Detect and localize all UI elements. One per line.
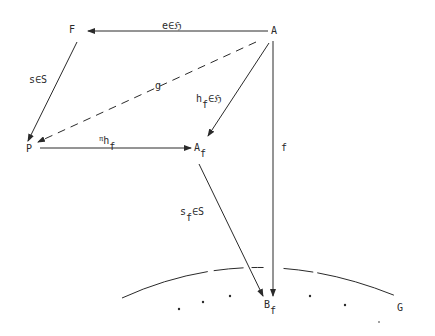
node-bf-sub: f	[270, 305, 276, 316]
edge-hf-sub: f	[202, 99, 208, 110]
diagram-canvas	[0, 0, 435, 336]
edge-hf-arrow	[208, 43, 269, 136]
edge-f-label: f	[281, 143, 287, 153]
node-a: A	[271, 26, 277, 36]
edge-hf-label: hf∈ℌ	[196, 94, 222, 104]
edge-pi-main: π	[99, 135, 103, 143]
edge-s-label: s∈S	[29, 75, 47, 85]
node-g: G	[397, 303, 403, 313]
edge-g-dashed-arrow	[38, 42, 256, 142]
node-bf: Bf	[264, 300, 276, 310]
node-af-sub: f	[200, 148, 206, 159]
edge-sf-sub: f	[186, 212, 192, 223]
edge-sf-label: sf∈S	[180, 207, 204, 217]
edge-sf-arrow	[199, 164, 263, 296]
edge-sf-tail: ∈S	[192, 206, 204, 217]
node-p: P	[26, 144, 32, 154]
edge-pi-label: πhf	[99, 136, 115, 146]
edge-pi-sub: f	[109, 141, 115, 152]
edge-hf-tail: ∈ℌ	[208, 93, 222, 104]
edge-e-label: e∈ℌ	[162, 21, 182, 31]
node-af: Af	[194, 143, 206, 153]
edge-s-arrow	[28, 42, 77, 141]
region-g-arc	[122, 267, 410, 302]
node-f: F	[69, 25, 75, 35]
region-g-dots	[178, 295, 380, 323]
edge-g-label: g	[155, 81, 161, 91]
